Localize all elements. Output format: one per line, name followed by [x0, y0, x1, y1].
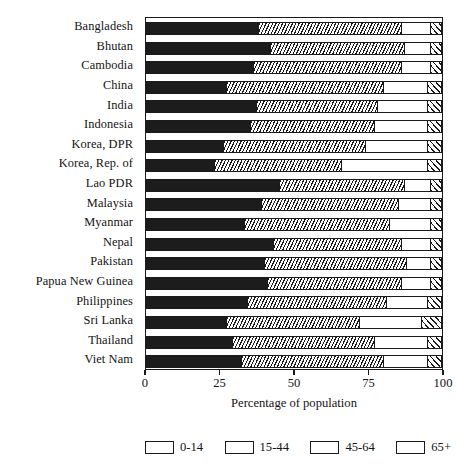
- stacked-bar: [146, 257, 442, 270]
- bar-segment: [244, 218, 389, 231]
- bar-segment: [401, 238, 431, 251]
- legend-item[interactable]: 65+: [396, 440, 451, 455]
- stacked-bar: [146, 159, 442, 172]
- x-axis-tick: [293, 370, 294, 375]
- stacked-bar: [146, 100, 442, 113]
- stacked-bar: [146, 198, 442, 211]
- bar-segment: [270, 42, 403, 55]
- bar-row: [146, 60, 442, 80]
- bar-segment: [146, 100, 256, 113]
- bar-segment: [374, 120, 427, 133]
- bar-segment: [427, 100, 442, 113]
- bar-segment: [383, 81, 427, 94]
- bar-segment: [430, 238, 442, 251]
- y-axis-label: Viet Nam: [0, 350, 139, 370]
- bar-segment: [146, 42, 270, 55]
- bar-segment: [232, 336, 374, 349]
- bar-segment: [398, 198, 431, 211]
- bar-segment: [430, 179, 442, 192]
- bar-segment: [430, 218, 442, 231]
- stacked-bar: [146, 42, 442, 55]
- bar-row: [146, 275, 442, 295]
- bar-segment: [146, 140, 223, 153]
- bar-row: [146, 119, 442, 139]
- bar-segment: [226, 316, 359, 329]
- bar-row: [146, 315, 442, 335]
- legend-label: 65+: [431, 440, 451, 455]
- bar-segment: [146, 355, 241, 368]
- stacked-bar: [146, 277, 442, 290]
- bar-row: [146, 217, 442, 237]
- bar-segment: [256, 100, 377, 113]
- x-axis-tick-label: 25: [213, 376, 226, 391]
- bar-row: [146, 99, 442, 119]
- population-age-structure-chart: BangladeshBhutanCambodiaChinaIndiaIndone…: [0, 0, 466, 473]
- y-axis-label: India: [0, 95, 139, 115]
- bar-segment: [146, 159, 214, 172]
- bar-segment: [430, 42, 442, 55]
- y-axis-label: Korea, Rep. of: [0, 154, 139, 174]
- bars-container: [146, 18, 442, 369]
- y-axis-label: Bhutan: [0, 37, 139, 57]
- bar-segment: [427, 81, 442, 94]
- bar-segment: [279, 179, 403, 192]
- bar-segment: [427, 296, 442, 309]
- legend-item[interactable]: 15-44: [225, 440, 289, 455]
- bar-segment: [146, 218, 244, 231]
- bar-segment: [146, 61, 253, 74]
- bar-row: [146, 40, 442, 60]
- stacked-bar: [146, 179, 442, 192]
- bar-segment: [146, 120, 250, 133]
- x-axis-tick: [144, 370, 145, 375]
- bar-row: [146, 79, 442, 99]
- bar-segment: [250, 120, 374, 133]
- bar-segment: [146, 22, 258, 35]
- bar-segment: [377, 100, 427, 113]
- legend-label: 45-64: [345, 440, 374, 455]
- stacked-bar: [146, 120, 442, 133]
- bar-segment: [389, 218, 430, 231]
- y-axis-label: Korea, DPR: [0, 135, 139, 155]
- stacked-bar: [146, 140, 442, 153]
- bar-segment: [241, 355, 383, 368]
- x-axis-title: Percentage of population: [145, 396, 443, 411]
- x-axis-tick-labels: 0255075100: [145, 376, 443, 394]
- bar-row: [146, 138, 442, 158]
- bar-row: [146, 236, 442, 256]
- plot-area: [145, 17, 443, 370]
- bar-segment: [386, 296, 427, 309]
- bar-segment: [427, 159, 442, 172]
- bar-segment: [427, 140, 442, 153]
- bar-segment: [427, 120, 442, 133]
- y-axis-label: Sri Lanka: [0, 311, 139, 331]
- bar-segment: [430, 22, 442, 35]
- bar-segment: [214, 159, 341, 172]
- bar-segment: [427, 336, 442, 349]
- bar-segment: [406, 257, 430, 270]
- bar-segment: [258, 22, 400, 35]
- y-axis-label: Bangladesh: [0, 17, 139, 37]
- y-axis-label: Malaysia: [0, 193, 139, 213]
- legend-item[interactable]: 0-14: [145, 440, 203, 455]
- bar-segment: [146, 179, 279, 192]
- stacked-bar: [146, 355, 442, 368]
- bar-row: [146, 177, 442, 197]
- legend-swatch-icon: [396, 441, 425, 454]
- stacked-bar: [146, 81, 442, 94]
- y-axis-label: Thailand: [0, 331, 139, 351]
- bar-segment: [404, 42, 431, 55]
- bar-segment: [341, 159, 427, 172]
- legend-label: 0-14: [180, 440, 203, 455]
- legend-item[interactable]: 45-64: [310, 440, 374, 455]
- bar-segment: [226, 81, 383, 94]
- bar-row: [146, 334, 442, 354]
- y-axis-label: Philippines: [0, 291, 139, 311]
- x-axis-ticks: [145, 370, 443, 375]
- bar-segment: [401, 61, 431, 74]
- bar-segment: [146, 238, 273, 251]
- bar-row: [146, 158, 442, 178]
- stacked-bar: [146, 316, 442, 329]
- x-axis-tick-label: 0: [142, 376, 148, 391]
- bar-segment: [261, 198, 397, 211]
- bar-row: [146, 197, 442, 217]
